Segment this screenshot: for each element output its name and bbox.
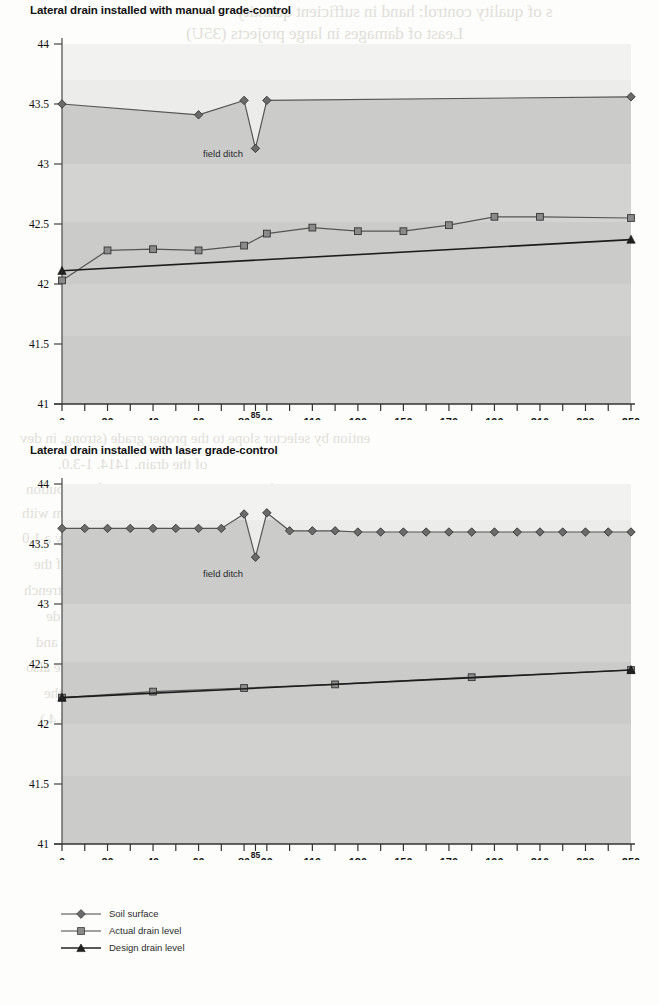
x-tick-label: 20 — [101, 416, 113, 420]
triangle-marker-icon — [60, 942, 102, 954]
data-point-square — [446, 222, 453, 229]
data-point-square — [537, 213, 544, 220]
x-tick-label: 170 — [440, 416, 458, 420]
x-tick-label: 250 — [622, 856, 640, 860]
x-tick-label: 0 — [59, 416, 65, 420]
x-tick-label: 85 — [251, 850, 261, 860]
x-tick-label: 210 — [531, 856, 549, 860]
x-tick-label: 40 — [147, 416, 159, 420]
legend-label-design-drain-level: Design drain level — [109, 942, 185, 953]
soil-fill-area — [62, 97, 631, 404]
chart-2-annotation-field-ditch: field ditch — [203, 568, 243, 579]
y-tick-label: 41 — [38, 398, 50, 410]
x-tick-label: 230 — [576, 416, 594, 420]
x-tick-label: 20 — [101, 856, 113, 860]
x-tick-label: 80 — [238, 416, 250, 420]
x-tick-label: 110 — [303, 856, 321, 860]
data-point-square — [628, 215, 635, 222]
data-point-square — [263, 230, 270, 237]
y-tick-label: 43 — [38, 158, 50, 170]
y-tick-label: 43 — [38, 598, 50, 610]
scan-tone-band — [62, 484, 631, 520]
legend-label-soil-surface: Soil surface — [109, 908, 159, 919]
legend-item-design-drain-level: Design drain level — [60, 939, 185, 956]
scan-tone-band — [62, 604, 631, 662]
chart-1-svg: 4443.54342.54241.54102040608085901101301… — [0, 20, 659, 420]
x-tick-label: 170 — [440, 856, 458, 860]
y-tick-label: 43.5 — [29, 538, 49, 550]
y-tick-label: 44 — [38, 478, 50, 490]
chart-2-svg: 4443.54342.54241.54102040608085901101301… — [0, 460, 659, 860]
y-tick-label: 41.5 — [29, 778, 49, 790]
legend-item-actual-drain-level: Actual drain level — [60, 922, 185, 939]
x-tick-label: 40 — [147, 856, 159, 860]
x-tick-label: 250 — [622, 416, 640, 420]
y-tick-label: 42.5 — [29, 658, 49, 670]
x-tick-label: 150 — [394, 416, 412, 420]
chart-laser-grade-control: Lateral drain installed with laser grade… — [0, 440, 659, 870]
data-point-square — [400, 228, 407, 235]
data-point-square — [309, 224, 316, 231]
y-tick-label: 42.5 — [29, 218, 49, 230]
diamond-marker-icon — [60, 908, 102, 920]
data-point-square — [491, 213, 498, 220]
y-tick-label: 44 — [38, 38, 50, 50]
x-tick-label: 130 — [349, 856, 367, 860]
scan-tone-band — [62, 284, 631, 336]
legend-label-actual-drain-level: Actual drain level — [109, 925, 181, 936]
x-tick-label: 0 — [59, 856, 65, 860]
data-point-square — [59, 277, 66, 284]
scan-tone-band — [62, 44, 631, 80]
chart-2-plot-area: 4443.54342.54241.54102040608085901101301… — [0, 460, 659, 860]
chart-1-annotation-field-ditch: field ditch — [203, 148, 243, 159]
x-tick-label: 85 — [251, 410, 261, 420]
scan-tone-band — [62, 164, 631, 222]
data-point-square — [354, 228, 361, 235]
figure-legend: Soil surface Actual drain level Design d… — [60, 905, 185, 956]
chart-1-plot-area: 4443.54342.54241.54102040608085901101301… — [0, 20, 659, 420]
x-tick-label: 150 — [394, 856, 412, 860]
data-point-square — [195, 247, 202, 254]
x-tick-label: 130 — [349, 416, 367, 420]
data-point-square — [150, 246, 157, 253]
x-tick-label: 60 — [192, 416, 204, 420]
y-tick-label: 42 — [38, 718, 50, 730]
y-tick-label: 42 — [38, 278, 50, 290]
x-tick-label: 90 — [261, 416, 273, 420]
x-tick-label: 110 — [303, 416, 321, 420]
data-point-square — [104, 247, 111, 254]
legend-item-soil-surface: Soil surface — [60, 905, 185, 922]
x-tick-label: 90 — [261, 856, 273, 860]
soil-fill-area — [62, 513, 631, 844]
x-tick-label: 210 — [531, 416, 549, 420]
scan-tone-band — [62, 724, 631, 776]
x-tick-label: 60 — [192, 856, 204, 860]
square-marker-icon — [60, 925, 102, 937]
x-tick-label: 80 — [238, 856, 250, 860]
chart-1-title: Lateral drain installed with manual grad… — [30, 4, 291, 16]
chart-manual-grade-control: Lateral drain installed with manual grad… — [0, 0, 659, 430]
y-tick-label: 43.5 — [29, 98, 49, 110]
y-tick-label: 41.5 — [29, 338, 49, 350]
data-point-square — [241, 242, 248, 249]
chart-2-title: Lateral drain installed with laser grade… — [30, 444, 278, 456]
y-tick-label: 41 — [38, 838, 50, 850]
x-tick-label: 230 — [576, 856, 594, 860]
x-tick-label: 190 — [485, 416, 503, 420]
x-tick-label: 190 — [485, 856, 503, 860]
